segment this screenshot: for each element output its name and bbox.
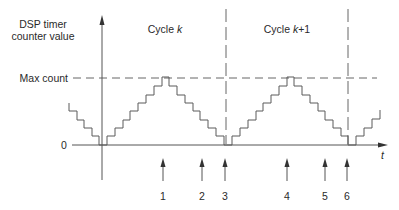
event-marker-label: 5 — [322, 190, 328, 202]
up-arrow-icon — [223, 158, 228, 167]
event-marker-4: 4 — [284, 158, 290, 202]
y-axis-label-line2: counter value — [11, 30, 74, 42]
up-arrow-icon — [323, 158, 328, 167]
zero-label: 0 — [61, 139, 67, 151]
event-marker-label: 6 — [344, 190, 350, 202]
event-marker-3: 3 — [222, 158, 228, 202]
event-marker-label: 2 — [199, 190, 205, 202]
event-marker-label: 4 — [284, 190, 290, 202]
event-marker-label: 3 — [222, 190, 228, 202]
event-marker-2: 2 — [199, 158, 205, 202]
timer-waveform-diagram: DSP timer counter value Cycle k Cycle k+… — [0, 0, 399, 210]
cycle-k-plus-1-label: Cycle k+1 — [264, 23, 311, 35]
y-axis-arrow-icon — [100, 15, 105, 25]
counter-staircase-cycle-k — [107, 77, 232, 145]
up-arrow-icon — [285, 158, 290, 167]
event-marker-label: 1 — [160, 190, 166, 202]
time-axis-arrow-icon — [378, 143, 388, 148]
y-axis-label-line1: DSP timer — [19, 18, 67, 30]
counter-staircase-next — [356, 110, 380, 145]
event-marker-5: 5 — [322, 158, 328, 202]
counter-staircase-previous — [69, 103, 107, 145]
up-arrow-icon — [161, 158, 166, 167]
event-marker-6: 6 — [344, 158, 350, 202]
counter-staircase-cycle-k-plus-1 — [232, 77, 356, 145]
time-axis-label: t — [381, 149, 385, 161]
up-arrow-icon — [345, 158, 350, 167]
cycle-k-label: Cycle k — [148, 23, 183, 35]
up-arrow-icon — [200, 158, 205, 167]
max-count-label: Max count — [20, 72, 69, 84]
event-marker-1: 1 — [160, 158, 166, 202]
